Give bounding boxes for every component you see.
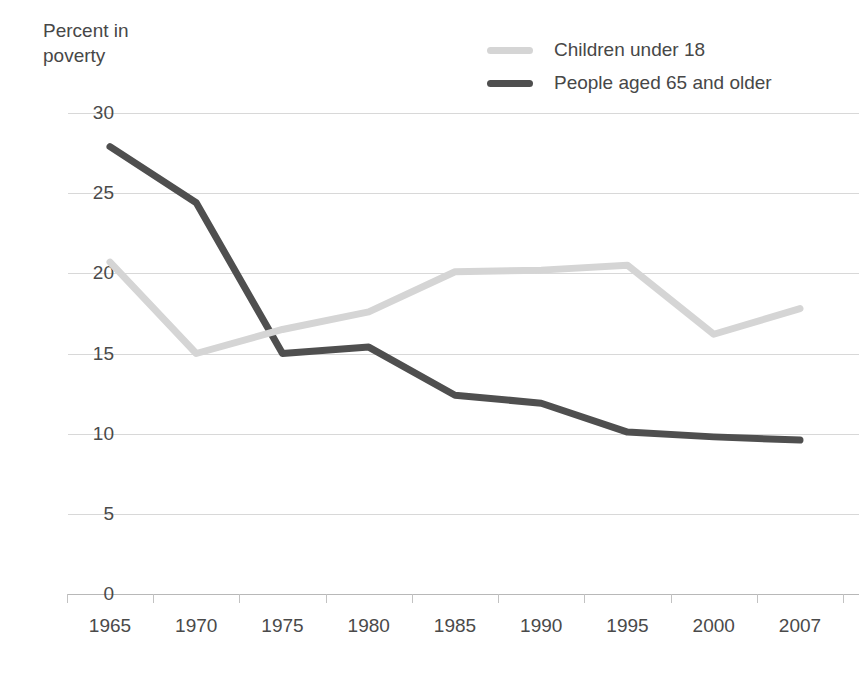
x-tick-label-1975: 1975 [261,615,303,637]
x-tick-label-1995: 1995 [606,615,648,637]
x-axis-tick [239,594,240,603]
x-tick-label-1970: 1970 [175,615,217,637]
x-tick-label-1965: 1965 [89,615,131,637]
poverty-line-chart: Percent in poverty Children under 18 Peo… [0,0,866,678]
y-axis-title: Percent in poverty [43,18,213,68]
x-axis-tick [671,594,672,603]
legend-swatch-children [487,47,533,54]
x-tick-label-2007: 2007 [779,615,821,637]
legend-label-seniors: People aged 65 and older [554,72,772,94]
chart-legend: Children under 18 People aged 65 and old… [487,38,772,95]
plot-area: 051015202530 196519701975198019851990199… [68,103,859,594]
x-tick-label-2000: 2000 [693,615,735,637]
x-axis-baseline [68,594,859,595]
series-line-children-under-18 [110,262,800,353]
x-tick-label-1980: 1980 [348,615,390,637]
x-axis-tick [153,594,154,603]
x-axis-tick [498,594,499,603]
legend-item-seniors[interactable]: People aged 65 and older [487,71,772,95]
series-layer [68,103,859,594]
x-tick-label-1985: 1985 [434,615,476,637]
legend-swatch-seniors [487,80,533,87]
legend-item-children[interactable]: Children under 18 [487,38,772,62]
x-tick-label-1990: 1990 [520,615,562,637]
series-line-people-aged-65-and-older [110,147,800,440]
x-axis-tick [67,594,68,603]
x-axis-tick [412,594,413,603]
x-axis-tick [326,594,327,603]
x-axis-tick [584,594,585,603]
legend-label-children: Children under 18 [554,39,705,61]
x-axis-tick [757,594,758,603]
x-axis-tick [843,594,844,603]
